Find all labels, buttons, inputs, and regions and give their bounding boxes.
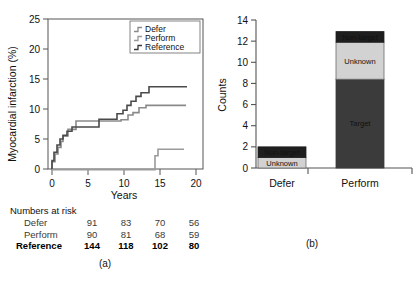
risk-perform-t10: 68	[143, 229, 177, 241]
panel-a-xtick-10: 10	[118, 178, 130, 189]
panel-a-ytick-0: 0	[34, 164, 40, 175]
panel-a-xlabel: Years	[111, 189, 137, 200]
risk-reference-t15: 80	[177, 240, 211, 252]
panel-a-ytick-10: 10	[29, 104, 41, 115]
curve-defer	[52, 105, 186, 169]
panel-b-category-labels: Defer Perform	[269, 177, 379, 189]
risk-perform-t0: 90	[75, 229, 109, 241]
risk-defer-t10: 70	[143, 217, 177, 229]
panel-b-bar-chart: Counts 0 2 4 6 8 10 12 14	[212, 0, 416, 285]
panel-b-svg: Counts 0 2 4 6 8 10 12 14	[212, 0, 416, 235]
panel-b-ylabel: Counts	[216, 78, 228, 111]
panel-b-ytick-8: 8	[242, 78, 248, 89]
panel-a-y-axis	[43, 19, 48, 169]
panel-b-y-ticks	[251, 20, 256, 168]
panel-a-y-ticklabels: 0 5 10 15 20 25	[29, 14, 41, 175]
panel-a-xtick-5: 5	[85, 178, 91, 189]
panel-a-xtick-0: 0	[49, 178, 55, 189]
panel-a-x-ticklabels: 0 5 10 15 20	[49, 178, 202, 189]
panel-b-ytick-6: 6	[242, 99, 248, 110]
bar-perform: Target Unknown Non-target	[336, 32, 384, 168]
panel-b-ytick-12: 12	[237, 36, 249, 47]
risk-reference-t5: 118	[109, 240, 143, 252]
risk-perform-t15: 59	[177, 229, 211, 241]
risk-perform-t5: 81	[109, 229, 143, 241]
risk-defer-t15: 56	[177, 217, 211, 229]
risk-row-label-reference: Reference	[10, 240, 75, 252]
panel-a-caption: (a)	[0, 258, 214, 269]
panel-b-category-perform: Perform	[341, 177, 379, 189]
bar-defer-label-unknown: Unknown	[266, 159, 297, 168]
bar-perform-label-unknown: Unknown	[344, 57, 375, 66]
risk-row-label-perform: Perform	[10, 229, 75, 241]
numbers-at-risk-table: Numbers at risk Defer 91 83 70 56 Perfor…	[8, 205, 213, 252]
panel-a-survival-chart: Myocardial infarction (%) 0 5 10 15 20 2…	[0, 0, 218, 285]
panel-b-ytick-2: 2	[242, 141, 248, 152]
panel-a-legend: Defer Perform Reference	[130, 21, 200, 53]
panel-a-ytick-25: 25	[29, 14, 41, 25]
panel-a-ytick-15: 15	[29, 74, 41, 85]
curve-reference	[52, 87, 187, 169]
panel-a-svg: Myocardial infarction (%) 0 5 10 15 20 2…	[0, 0, 218, 200]
panel-a-xtick-20: 20	[190, 178, 202, 189]
risk-reference-t10: 102	[143, 240, 177, 252]
risk-defer-t5: 83	[109, 217, 143, 229]
legend-label-reference: Reference	[145, 42, 184, 52]
risk-row-label-defer: Defer	[10, 217, 75, 229]
panel-a-ytick-5: 5	[34, 134, 40, 145]
table-row: Reference 144 118 102 80	[10, 240, 211, 252]
panel-b-y-ticklabels: 0 2 4 6 8 10 12 14	[237, 15, 249, 174]
panel-b-caption: (b)	[210, 238, 414, 249]
panel-b-ytick-4: 4	[242, 120, 248, 131]
bar-perform-label-non-target: Non-target	[342, 33, 378, 42]
panel-b-ytick-14: 14	[237, 15, 249, 26]
risk-defer-t0: 91	[75, 217, 109, 229]
panel-a-xtick-15: 15	[154, 178, 166, 189]
panel-b-x-ticks	[308, 168, 412, 174]
panel-a-ylabel: Myocardial infarction (%)	[6, 46, 18, 162]
bar-defer: Unknown Non-target	[258, 147, 306, 168]
bar-defer-label-non-target: Non-target	[264, 148, 300, 157]
numbers-at-risk-title: Numbers at risk	[10, 205, 213, 216]
risk-reference-t0: 144	[75, 240, 109, 252]
bar-perform-label-target: Target	[350, 119, 372, 128]
table-row: Defer 91 83 70 56	[10, 217, 211, 229]
panel-a-ytick-20: 20	[29, 44, 41, 55]
panel-b-ytick-0: 0	[242, 163, 248, 174]
figure-container: Myocardial infarction (%) 0 5 10 15 20 2…	[0, 0, 416, 285]
panel-b-ytick-10: 10	[237, 57, 249, 68]
curve-perform	[52, 149, 184, 169]
table-row: Perform 90 81 68 59	[10, 229, 211, 241]
panel-b-category-defer: Defer	[269, 177, 295, 189]
